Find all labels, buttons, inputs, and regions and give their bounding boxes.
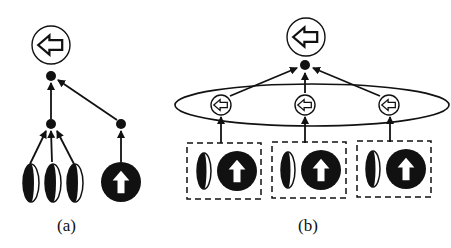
panel-a [23, 26, 141, 202]
diagram-canvas [0, 0, 451, 248]
feature-group-1 [187, 143, 261, 199]
intermediate-node-right [116, 119, 126, 129]
intermediate-node-left [46, 119, 56, 129]
caption-b: (b) [298, 216, 318, 236]
filled-circle-up-arrow-icon [101, 162, 141, 202]
half-filled-ellipse-icon [45, 164, 61, 202]
output-left-arrow-node [287, 18, 325, 56]
caption-a: (a) [57, 216, 76, 236]
edge [51, 131, 52, 162]
root-node [300, 60, 310, 70]
edge [57, 131, 74, 164]
output-left-arrow-node [32, 26, 70, 64]
root-node [46, 71, 56, 81]
half-filled-ellipse-icon [23, 164, 39, 202]
edge [230, 68, 297, 96]
half-filled-ellipse-icon [67, 164, 83, 202]
edge [30, 131, 46, 164]
edge [313, 68, 380, 96]
panel-b [175, 18, 449, 199]
small-left-arrow-node [295, 95, 315, 115]
small-left-arrow-node [379, 95, 399, 115]
small-left-arrow-node [211, 95, 231, 115]
feature-group-2 [272, 142, 346, 198]
feature-group-3 [357, 141, 431, 197]
edge [58, 80, 117, 120]
